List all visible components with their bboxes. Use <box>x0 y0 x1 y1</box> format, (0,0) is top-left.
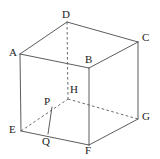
vertex-label-d: D <box>62 9 70 20</box>
solid-edge-group <box>20 22 138 145</box>
edge-D-C <box>67 22 138 42</box>
vertex-label-a: A <box>9 47 17 58</box>
vertex-label-e: E <box>9 124 16 135</box>
cube-drawing <box>0 0 160 159</box>
geometry-figure: ABCDEFGHPQ <box>0 0 160 159</box>
vertex-label-p: P <box>44 96 50 107</box>
vertex-label-b: B <box>85 54 92 65</box>
edge-A-E <box>20 54 21 131</box>
vertex-label-f: F <box>85 145 91 156</box>
vertex-label-c: C <box>142 32 149 43</box>
dashed-edge-group <box>21 22 138 131</box>
edge-D-H <box>67 22 68 99</box>
vertex-label-g: G <box>142 111 150 122</box>
edge-A-D <box>20 22 67 54</box>
edge-F-G <box>89 119 138 145</box>
edge-H-G <box>68 99 138 119</box>
vertex-label-q: Q <box>42 136 50 147</box>
edge-B-C <box>89 42 138 68</box>
edge-E-F <box>21 131 89 145</box>
vertex-label-h: H <box>70 84 78 95</box>
edge-A-B <box>20 54 89 68</box>
